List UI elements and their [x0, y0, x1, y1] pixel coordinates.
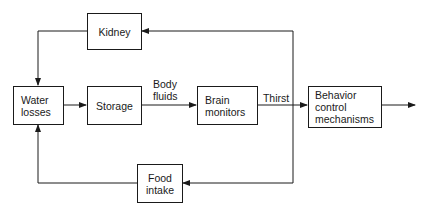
storage-label: Storage	[96, 100, 133, 112]
brain-monitors-box: Brain monitors	[197, 86, 258, 125]
kidney-label: Kidney	[98, 26, 130, 38]
behavior-control-box: Behavior control mechanisms	[308, 86, 382, 128]
arrow-food-to-water	[38, 125, 137, 183]
food-intake-label: Food intake	[146, 172, 174, 196]
brain-monitors-label: Brain monitors	[205, 94, 245, 118]
water-regulation-diagram: Kidney Water losses Storage Brain monito…	[0, 0, 430, 215]
body-fluids-label: Body fluids	[153, 78, 189, 102]
storage-box: Storage	[87, 86, 142, 125]
thirst-label: Thirst	[260, 92, 292, 104]
kidney-box: Kidney	[87, 13, 142, 50]
water-losses-box: Water losses	[13, 86, 64, 125]
behavior-control-label: Behavior control mechanisms	[315, 89, 374, 125]
water-losses-label: Water losses	[21, 94, 51, 118]
arrow-kidney-to-water	[38, 31, 87, 85]
food-intake-box: Food intake	[137, 164, 183, 203]
